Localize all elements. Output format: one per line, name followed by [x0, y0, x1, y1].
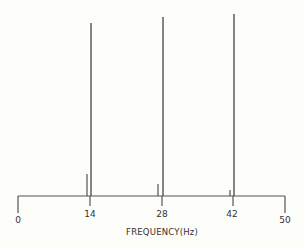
- spectrum-plot: [0, 0, 304, 249]
- x-tick-label-14: 14: [84, 209, 95, 219]
- x-tick-label-42: 42: [226, 209, 237, 219]
- x-tick-label-50: 50: [279, 215, 290, 225]
- x-tick-label-28: 28: [156, 209, 167, 219]
- x-axis-title: FREQUENCY(Hz): [126, 227, 198, 237]
- x-tick-label-0: 0: [15, 215, 21, 225]
